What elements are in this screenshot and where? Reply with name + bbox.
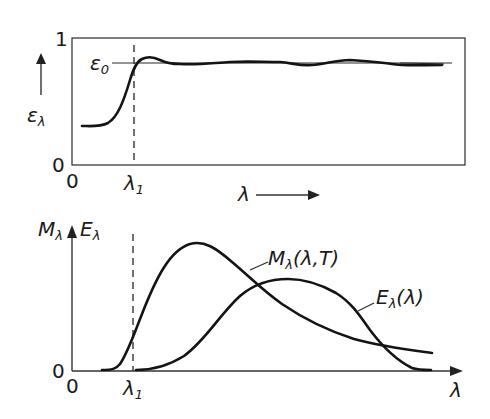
top-y-arrow-icon xyxy=(36,53,46,95)
bottom-y-axis xyxy=(67,225,77,371)
top-x-tick-origin: 0 xyxy=(66,169,79,193)
top-y-axis-label: ελ xyxy=(27,103,46,129)
top-panel-emissivity: 1 0 0 ελ ε0 λ1 λ xyxy=(27,27,465,206)
spectral-emissivity-figure: 1 0 0 ελ ε0 λ1 λ xyxy=(0,0,490,419)
emissivity-curve xyxy=(82,57,442,126)
bottom-x-tick-origin: 0 xyxy=(66,374,79,398)
m-curve-leader-line xyxy=(250,262,268,270)
top-y-tick-zero: 0 xyxy=(52,153,65,177)
bottom-y-label-e: Eλ xyxy=(80,217,100,243)
top-x-axis-label: λ xyxy=(237,182,250,206)
bottom-y-label-m: Mλ xyxy=(38,217,63,243)
epsilon0-label: ε0 xyxy=(90,51,109,77)
bottom-panel-spectra: Mλ Eλ 0 0 λ λ1 Mλ(λ,T) Eλ(λ) xyxy=(38,217,463,402)
bottom-y-tick-origin: 0 xyxy=(52,359,65,383)
e-curve-label: Eλ(λ) xyxy=(376,285,424,311)
top-panel-frame xyxy=(72,38,465,165)
bottom-lambda1-label: λ1 xyxy=(122,376,143,402)
bottom-x-axis-label: λ xyxy=(449,378,462,402)
m-curve-label: Mλ(λ,T) xyxy=(268,246,339,272)
e-curve-leader-line xyxy=(358,303,374,311)
top-x-arrow-icon xyxy=(256,190,320,200)
bottom-x-axis xyxy=(72,366,463,376)
top-lambda1-label: λ1 xyxy=(123,171,144,197)
top-y-tick-one: 1 xyxy=(55,27,68,51)
